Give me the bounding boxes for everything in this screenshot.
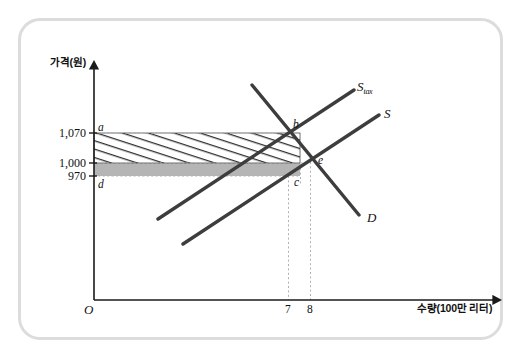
y-axis-title: 가격(원) [50, 57, 86, 68]
y-tick-label-1000: 1,000 [34, 157, 86, 169]
point-label-b: b [293, 119, 299, 131]
x-tick-label-8: 8 [307, 304, 313, 316]
curve-label-d: D [367, 211, 376, 224]
curve-label-s-tax-main: S [357, 79, 364, 94]
figure-frame-border [18, 18, 503, 340]
point-label-e: e [318, 155, 323, 167]
figure-root: 가격(원) 수량(100만 리터) O 1,070 1,000 970 7 8 … [0, 0, 525, 360]
curve-label-s-tax: Stax [357, 80, 372, 93]
origin-label: O [84, 303, 93, 316]
point-label-a: a [98, 122, 104, 134]
y-tick-label-1070: 1,070 [34, 127, 86, 139]
curve-label-s-tax-sub: tax [364, 87, 373, 96]
x-axis-title: 수량(100만 리터) [417, 303, 492, 314]
x-tick-label-7: 7 [285, 304, 291, 316]
curve-label-s: S [384, 107, 391, 120]
point-label-c: c [294, 177, 299, 189]
y-tick-label-970: 970 [34, 170, 86, 182]
point-label-d: d [98, 179, 104, 191]
